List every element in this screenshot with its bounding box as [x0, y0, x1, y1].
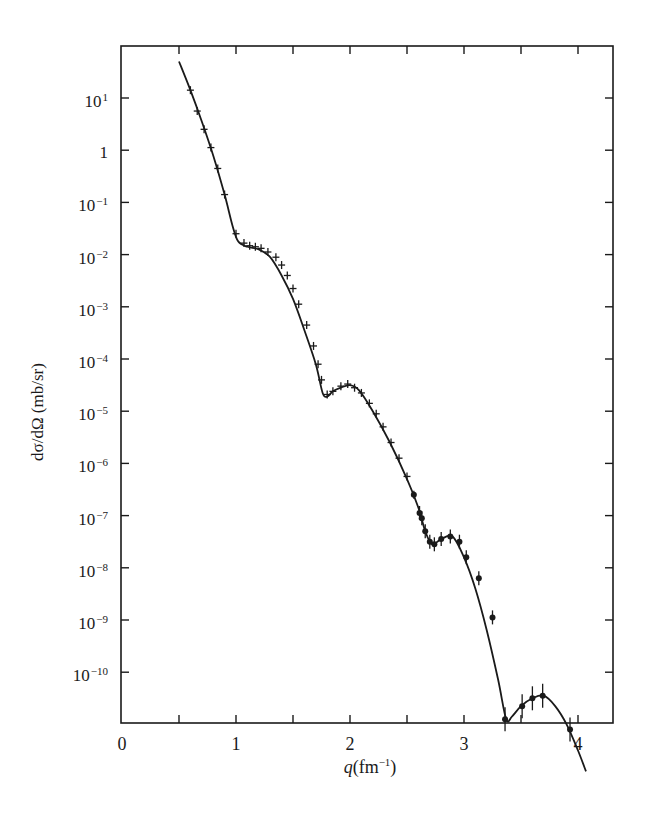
y-axis-label: dσ/dΩ (mb/sr) — [28, 363, 48, 461]
theory-curve — [179, 61, 586, 771]
x-tick-label: 4 — [563, 734, 593, 755]
y-tick-label: 10−5 — [48, 405, 108, 423]
y-tick-label: 10−4 — [48, 353, 108, 371]
y-tick-label: 101 — [48, 92, 108, 110]
y-tick-label: 1 — [48, 144, 108, 161]
x-tick-label: 0 — [107, 734, 137, 755]
y-tick-label: 10−6 — [48, 457, 108, 475]
x-tick-label: 1 — [221, 734, 251, 755]
axis-ticks — [121, 46, 613, 723]
x-axis-label: q(fm−1) — [344, 756, 397, 778]
y-tick-label: 10−2 — [48, 249, 108, 267]
y-tick-label: 10−8 — [48, 562, 108, 580]
data-points — [187, 86, 573, 741]
y-tick-label: 10−7 — [48, 510, 108, 528]
y-tick-label: 10−1 — [48, 196, 108, 214]
x-tick-label: 2 — [335, 734, 365, 755]
x-tick-label: 3 — [449, 734, 479, 755]
axes-frame — [121, 46, 613, 723]
y-tick-label: 10−10 — [48, 666, 108, 684]
y-tick-label: 10−3 — [48, 301, 108, 319]
y-tick-label: 10−9 — [48, 614, 108, 632]
